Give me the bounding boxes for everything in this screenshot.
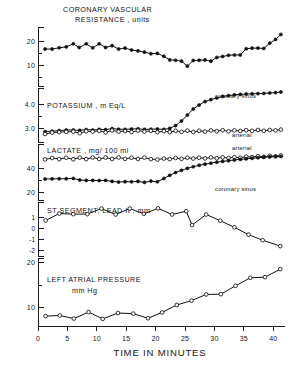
data-point [203, 58, 206, 61]
data-point [97, 157, 101, 161]
data-point [186, 65, 189, 68]
data-point [278, 267, 282, 271]
data-point [279, 33, 282, 36]
data-point [221, 160, 224, 163]
data-point [221, 55, 224, 58]
x-ticklabel: 25 [181, 335, 189, 342]
data-point [215, 129, 219, 133]
data-point [274, 91, 277, 94]
data-point [78, 178, 81, 181]
data-point [156, 206, 160, 210]
data-point [114, 213, 118, 217]
data-point [184, 209, 188, 213]
panel-potassium: POTASSIUM , m Eq/L 4.0 3.0 coronary sinu… [25, 88, 283, 142]
data-point [219, 292, 223, 296]
data-point [91, 179, 94, 182]
data-point [136, 157, 140, 161]
data-point [130, 156, 134, 160]
data-point [43, 132, 47, 136]
data-point [104, 46, 107, 49]
data-point [57, 212, 61, 216]
data-point [274, 38, 277, 41]
st-ticklabel-neg2: -2 [29, 247, 35, 254]
data-point [234, 284, 238, 288]
data-point [279, 155, 282, 158]
data-point [191, 157, 195, 161]
crv-series-group [44, 33, 283, 68]
data-point [58, 177, 61, 180]
crv-title-line2: RESISTANCE , units [75, 15, 150, 24]
data-point [117, 181, 120, 184]
lactate-ticklabel-20: 20 [27, 189, 35, 196]
data-point [168, 174, 171, 177]
data-point [209, 162, 212, 165]
x-axis: 0510152025303540 TIME IN MINUTES [36, 326, 285, 358]
data-point [156, 52, 159, 55]
data-point [162, 55, 165, 58]
lap-ticklabel-10: 10 [27, 304, 35, 311]
st-ticklabel-0: 0 [31, 225, 35, 232]
data-point [174, 59, 177, 62]
data-point [215, 56, 218, 59]
data-point [248, 276, 252, 280]
data-point [168, 127, 171, 130]
potassium-title: POTASSIUM , m Eq/L [47, 101, 126, 110]
data-point [44, 314, 48, 318]
potassium-label-coronary-sinus: coronary sinus [215, 93, 256, 99]
data-point [65, 177, 68, 180]
data-point [57, 130, 61, 134]
data-point [149, 129, 153, 133]
data-point [162, 157, 166, 161]
lactate-label-coronary-sinus: coronary sinus [215, 186, 256, 192]
data-point [209, 129, 213, 133]
panel-coronary-vascular-resistance: CORONARY VASCULAR RESISTANCE , units 20 … [27, 5, 283, 86]
data-point [278, 244, 282, 248]
data-point [110, 129, 114, 133]
data-point [190, 223, 194, 227]
data-point [72, 177, 75, 180]
data-point [104, 179, 107, 182]
lap-title-line1: LEFT ATRIAL PRESSURE [47, 275, 141, 284]
data-point [197, 129, 201, 133]
data-point [191, 130, 195, 134]
data-point [198, 59, 201, 62]
data-point [192, 107, 195, 110]
data-point [186, 113, 189, 116]
data-point [215, 161, 218, 164]
data-point [239, 158, 242, 161]
data-point [247, 233, 251, 237]
data-point [143, 156, 147, 160]
series-coronary-vascular-resistance [44, 33, 283, 68]
data-point [71, 130, 75, 134]
data-point [256, 92, 259, 95]
data-point [51, 48, 54, 51]
multi-panel-physiology-chart: CORONARY VASCULAR RESISTANCE , units 20 … [0, 0, 301, 366]
data-point [117, 156, 121, 160]
data-point [100, 207, 104, 211]
lactate-series-group [43, 154, 283, 184]
data-point [98, 42, 101, 45]
data-point [239, 53, 242, 56]
data-point [203, 100, 206, 103]
st-ticklabel-neg1: -1 [29, 236, 35, 243]
data-point [245, 47, 248, 50]
data-point [110, 157, 114, 161]
x-ticklabel: 40 [269, 335, 277, 342]
data-point [86, 212, 90, 216]
data-point [251, 157, 254, 160]
data-point [71, 157, 75, 161]
data-point [78, 156, 82, 160]
data-point [268, 155, 271, 158]
data-point [168, 157, 172, 161]
data-point [130, 48, 133, 51]
data-point [215, 156, 219, 160]
data-point [97, 129, 101, 133]
x-ticklabel: 15 [122, 335, 130, 342]
x-ticklabel: 30 [210, 335, 218, 342]
data-point [174, 124, 177, 127]
data-point [162, 129, 166, 133]
data-point [160, 311, 164, 315]
data-point [262, 47, 265, 50]
panel-st-segment: ST SEGMENT, LEAD II , mm 1 0 -1 -2 [29, 202, 282, 256]
data-point [268, 128, 272, 132]
